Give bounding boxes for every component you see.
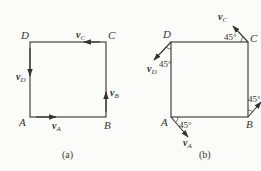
arrow-vd-b: [154, 42, 171, 60]
corner-label-b-b: B: [246, 118, 253, 130]
velocity-label-vd-a: vD: [16, 71, 26, 84]
diagram-a: D C A B vC vD vB vA (a): [16, 29, 119, 161]
arrow-vb-b: [248, 102, 261, 117]
diagram-b: 45° 45° 45° 45° D C A B vC vD vA (b): [147, 11, 261, 161]
corner-label-c-a: C: [108, 29, 116, 41]
corner-label-a-a: A: [18, 116, 26, 128]
corner-label-c-b: C: [250, 32, 258, 44]
square-b: [171, 42, 248, 117]
corner-label-b-a: B: [104, 119, 111, 131]
square-a: [30, 42, 106, 117]
velocity-label-vb-a: vB: [110, 87, 119, 100]
velocity-label-vc-a: vC: [76, 29, 85, 42]
velocity-label-vc-b: vC: [218, 11, 227, 24]
angle-arc-a: [176, 117, 178, 122]
angle-label-c: 45°: [224, 32, 237, 42]
angle-label-b: 45°: [248, 94, 261, 104]
corner-label-a-b: A: [160, 116, 168, 128]
diagram-canvas: D C A B vC vD vB vA (a) 45° 45° 45° 45° …: [0, 0, 261, 171]
corner-label-d-a: D: [20, 29, 29, 41]
angle-label-d: 45°: [159, 59, 172, 69]
velocity-label-va-b: vA: [183, 137, 192, 150]
velocity-label-va-a: vA: [52, 120, 61, 133]
velocity-label-vd-b: vD: [147, 63, 157, 76]
caption-a: (a): [62, 149, 73, 161]
angle-arc-c: [241, 37, 243, 42]
corner-label-d-b: D: [162, 28, 171, 40]
caption-b: (b): [199, 149, 211, 161]
angle-arc-d: [166, 47, 171, 49]
angle-arc-b: [248, 110, 253, 112]
angle-label-a: 45°: [179, 120, 192, 130]
